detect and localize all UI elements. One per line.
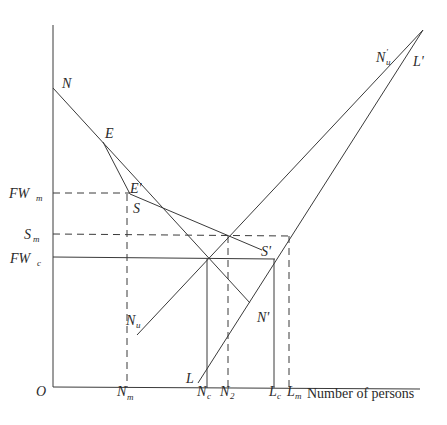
s-m-label: S m <box>24 227 40 244</box>
svg-text:FW: FW <box>8 186 31 201</box>
n-c-label: N c <box>196 384 211 401</box>
svg-text:': ' <box>386 47 389 57</box>
curve-n-u <box>137 30 423 335</box>
curve-n-n-prime <box>53 88 250 303</box>
svg-text:u: u <box>136 320 141 330</box>
n-m-label: N m <box>116 384 134 402</box>
label-s-prime: S' <box>261 244 272 259</box>
label-n-u: N u <box>125 313 141 330</box>
label-e: E <box>104 126 114 141</box>
l-c-label: L c <box>268 384 281 401</box>
curve-s-s-prime <box>130 194 262 250</box>
label-l: L <box>185 371 194 386</box>
label-s: S <box>133 201 140 216</box>
fw-m-label: FW m <box>8 186 43 203</box>
label-n: N <box>61 76 72 91</box>
svg-text:N: N <box>125 313 136 328</box>
fw-c-label: FW c <box>9 251 41 268</box>
x-axis-title: Number of persons <box>307 386 414 401</box>
svg-text:m: m <box>36 193 43 203</box>
label-e-prime: E' <box>129 181 143 196</box>
l-m-label: L m <box>286 384 302 401</box>
svg-text:m: m <box>33 234 40 244</box>
svg-text:FW: FW <box>9 251 32 266</box>
svg-text:m: m <box>127 392 134 402</box>
label-l-prime: L' <box>412 54 425 69</box>
svg-text:c: c <box>207 391 211 401</box>
n-2-label: N 2 <box>219 384 235 401</box>
svg-text:c: c <box>37 258 41 268</box>
svg-text:N: N <box>196 384 207 399</box>
svg-text:m: m <box>295 391 302 401</box>
s-m-guide <box>53 234 290 236</box>
svg-text:L: L <box>268 384 277 399</box>
label-n-prime: N' <box>256 310 270 325</box>
svg-text:N: N <box>116 384 127 399</box>
svg-text:u: u <box>386 57 391 67</box>
label-n-u-prime: N u ' <box>375 47 391 67</box>
fw-c-line <box>53 257 275 259</box>
svg-text:2: 2 <box>230 391 235 401</box>
svg-text:S: S <box>24 227 31 242</box>
svg-text:N: N <box>219 384 230 399</box>
svg-text:c: c <box>277 391 281 401</box>
origin-label: O <box>36 384 46 399</box>
curve-l <box>198 30 423 383</box>
svg-text:L: L <box>286 384 295 399</box>
svg-text:N: N <box>375 50 386 65</box>
labor-market-diagram: O FW m S m FW c N m N c N 2 L c L m Numb… <box>0 0 447 425</box>
